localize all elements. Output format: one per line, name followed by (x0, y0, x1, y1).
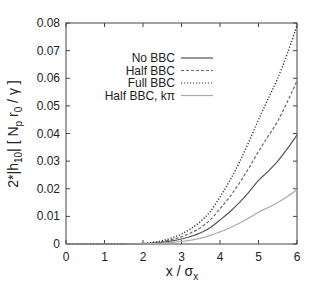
series-line-no-bbc (66, 135, 297, 244)
line-chart: 0123456 00.010.020.030.040.050.060.070.0… (0, 0, 317, 290)
legend-label: Half BBC, kπ (105, 89, 175, 103)
x-axis-ticks: 0123456 (63, 23, 301, 264)
y-tick-label: 0.04 (37, 127, 61, 141)
x-axis-title: x / σx (166, 263, 198, 282)
y-tick-label: 0.02 (37, 182, 61, 196)
y-tick-label: 0.06 (37, 71, 61, 85)
x-axis-title-main: x / σ (166, 263, 194, 279)
x-tick-label: 4 (217, 250, 224, 264)
y-title-part: | [ N (5, 126, 21, 151)
x-tick-label: 0 (63, 250, 70, 264)
x-tick-label: 3 (178, 250, 185, 264)
y-tick-label: 0.07 (37, 44, 61, 58)
x-tick-label: 1 (101, 250, 108, 264)
y-axis-title: 2*|h10| [ Np r0 / γ ] (5, 80, 24, 187)
y-title-part: / γ ] (5, 80, 21, 106)
x-tick-label: 2 (140, 250, 147, 264)
series-line-half-bbc-k- (66, 190, 297, 244)
x-tick-label: 6 (294, 250, 301, 264)
y-title-part: 2*|h (5, 163, 21, 188)
y-tick-label: 0.05 (37, 99, 61, 113)
y-title-sub: 10 (13, 151, 24, 163)
x-axis-title-subscript: x (193, 271, 198, 282)
legend: No BBCHalf BBCFull BBCHalf BBC, kπ (105, 51, 213, 103)
y-tick-label: 0.08 (37, 16, 61, 30)
y-tick-label: 0.01 (37, 209, 61, 223)
series-line-half-bbc (66, 81, 297, 244)
y-title-part: r (5, 112, 21, 121)
y-tick-label: 0 (53, 237, 60, 251)
y-tick-label: 0.03 (37, 154, 61, 168)
x-tick-label: 5 (255, 250, 262, 264)
